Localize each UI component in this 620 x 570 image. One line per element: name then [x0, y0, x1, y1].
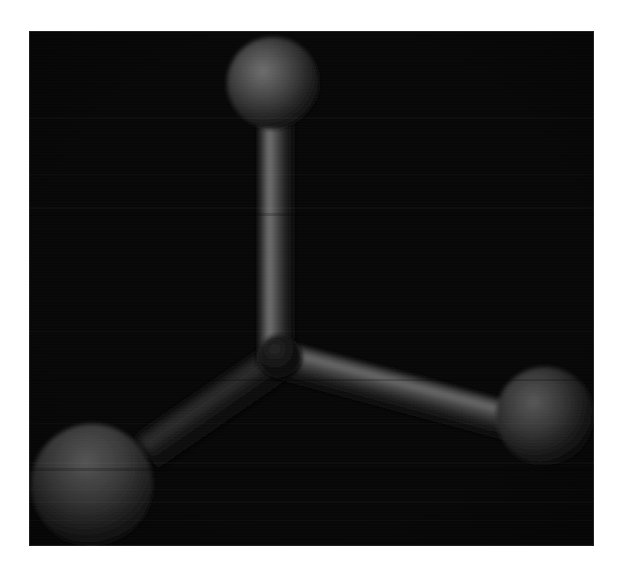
atom-center[interactable]: [258, 335, 302, 379]
bond-center-top: [257, 123, 295, 367]
atom-right-sphere[interactable]: [496, 367, 594, 465]
atom-lower-left-sphere[interactable]: [31, 424, 153, 546]
molecule-scene-svg: [29, 31, 594, 546]
page-canvas: [0, 0, 620, 570]
molecule-3d-viewport[interactable]: [29, 31, 594, 546]
atom-top-sphere[interactable]: [227, 37, 319, 129]
